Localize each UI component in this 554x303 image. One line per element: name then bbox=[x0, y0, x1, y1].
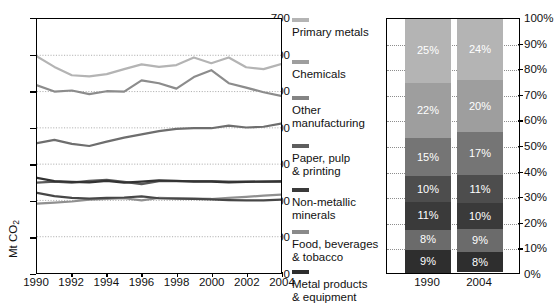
x-tick-label: 1996 bbox=[121, 276, 161, 288]
legend-item-6[interactable]: Food, beverages& tobacco bbox=[292, 230, 384, 263]
bar-segment: 10% bbox=[405, 176, 451, 201]
bar-segment: 24% bbox=[457, 19, 503, 80]
percent-tick-label: 50% bbox=[524, 141, 554, 152]
legend-item-2[interactable]: Chemicals bbox=[292, 60, 384, 81]
bar-segment-label: 10% bbox=[469, 211, 491, 222]
percent-tick-mark bbox=[518, 172, 523, 173]
x-tick-label: 1992 bbox=[51, 276, 91, 288]
percent-tick-mark bbox=[518, 248, 523, 249]
bar-segment: 17% bbox=[457, 132, 503, 176]
bar-segment: 9% bbox=[405, 250, 451, 273]
percent-tick-mark bbox=[518, 146, 523, 147]
bar-segment-label: 8% bbox=[472, 257, 488, 268]
bar-segment-label: 11% bbox=[417, 210, 438, 221]
line-chart: Mt CO2 7006005004003002001000 1990199219… bbox=[0, 0, 290, 296]
bar-category-label: 1990 bbox=[397, 276, 457, 288]
legend-swatch-icon bbox=[292, 144, 309, 148]
percent-tick-mark bbox=[518, 120, 523, 121]
bar-segment: 8% bbox=[457, 252, 503, 272]
legend-item-3[interactable]: Othermanufacturing bbox=[292, 96, 384, 129]
y-axis-title: Mt CO2 bbox=[7, 209, 21, 269]
line-series-svg bbox=[37, 19, 281, 273]
bar-segment: 9% bbox=[457, 229, 503, 252]
line-plot-area bbox=[36, 18, 282, 274]
percent-tick-label: 10% bbox=[524, 243, 554, 254]
bar-segment: 22% bbox=[405, 83, 451, 139]
legend-label: Paper, pulp bbox=[292, 152, 384, 165]
legend-swatch-icon bbox=[292, 230, 309, 234]
bar-segment-label: 24% bbox=[469, 44, 491, 55]
percent-tick-label: 90% bbox=[524, 38, 554, 49]
x-tick-label: 1998 bbox=[157, 276, 197, 288]
bar-segment-label: 20% bbox=[469, 101, 491, 112]
legend-item-1[interactable]: Primary metals bbox=[292, 18, 384, 39]
percent-tick-label: 40% bbox=[524, 166, 554, 177]
stacked-bar-2004[interactable]: 24%20%17%11%10%9%8% bbox=[457, 19, 503, 273]
legend-label-line2: & printing bbox=[292, 165, 384, 178]
x-tick-mark bbox=[282, 272, 283, 277]
bar-segment-label: 10% bbox=[417, 184, 439, 195]
line-series-3 bbox=[37, 124, 281, 146]
bar-segment-label: 11% bbox=[469, 184, 490, 195]
y-axis-title-subscript: 2 bbox=[11, 220, 21, 225]
legend-label-line2: & equipment bbox=[292, 291, 384, 303]
bar-segment: 20% bbox=[457, 80, 503, 131]
bar-segment: 11% bbox=[457, 175, 503, 203]
line-series-1 bbox=[37, 56, 281, 76]
legend-swatch-icon bbox=[292, 188, 309, 192]
bar-segment-label: 17% bbox=[469, 148, 491, 159]
stacked-bar-1990[interactable]: 25%22%15%10%11%8%9% bbox=[405, 19, 451, 273]
stacked-bar-chart: 25%22%15%10%11%8%9%24%20%17%11%10%9%8% 1… bbox=[384, 0, 552, 296]
x-tick-label: 1990 bbox=[16, 276, 56, 288]
percent-tick-mark bbox=[518, 95, 523, 96]
percent-tick-label: 80% bbox=[524, 64, 554, 75]
bar-segment: 8% bbox=[405, 230, 451, 250]
percent-tick-mark bbox=[518, 69, 523, 70]
bar-category-label: 2004 bbox=[449, 276, 509, 288]
legend-label: Chemicals bbox=[292, 68, 384, 81]
percent-tick-mark bbox=[518, 44, 523, 45]
bar-segment-label: 9% bbox=[420, 256, 436, 267]
bar-segment-label: 25% bbox=[417, 45, 439, 56]
legend-label-line2: minerals bbox=[292, 209, 384, 222]
legend-swatch-icon bbox=[292, 96, 309, 100]
legend-swatch-icon bbox=[292, 60, 309, 64]
chart-legend: Primary metalsChemicalsOthermanufacturin… bbox=[292, 16, 384, 288]
percent-tick-label: 70% bbox=[524, 89, 554, 100]
legend-label: Non-metallic bbox=[292, 196, 384, 209]
x-tick-label: 1994 bbox=[86, 276, 126, 288]
bar-segment-label: 8% bbox=[420, 234, 436, 245]
bar-segment-label: 15% bbox=[417, 152, 439, 163]
bar-segment: 25% bbox=[405, 19, 451, 83]
bar-segment: 10% bbox=[457, 203, 503, 229]
bar-segment-label: 9% bbox=[472, 235, 488, 246]
percent-tick-label: 60% bbox=[524, 115, 554, 126]
bar-segment-label: 22% bbox=[417, 105, 439, 116]
legend-item-5[interactable]: Non-metallicminerals bbox=[292, 188, 384, 221]
legend-label: Metal products bbox=[292, 278, 384, 291]
legend-swatch-icon bbox=[292, 270, 309, 274]
legend-label-line2: manufacturing bbox=[292, 117, 384, 130]
percent-tick-label: 0% bbox=[524, 269, 554, 280]
x-tick-label: 2002 bbox=[227, 276, 267, 288]
legend-label: Food, beverages bbox=[292, 238, 384, 251]
percent-tick-mark bbox=[518, 197, 523, 198]
legend-item-7[interactable]: Metal products& equipment bbox=[292, 270, 384, 303]
bar-segment: 15% bbox=[405, 138, 451, 176]
legend-label: Primary metals bbox=[292, 26, 384, 39]
legend-label-line2: & tobacco bbox=[292, 251, 384, 264]
percent-tick-label: 30% bbox=[524, 192, 554, 203]
legend-label: Other bbox=[292, 104, 384, 117]
x-tick-label: 2000 bbox=[192, 276, 232, 288]
bar-plot-area: 25%22%15%10%11%8%9%24%20%17%11%10%9%8% bbox=[386, 18, 520, 274]
y-axis-title-text: Mt CO bbox=[7, 225, 19, 258]
percent-tick-label: 20% bbox=[524, 217, 554, 228]
percent-tick-mark bbox=[518, 223, 523, 224]
legend-item-4[interactable]: Paper, pulp& printing bbox=[292, 144, 384, 177]
percent-tick-label: 100% bbox=[524, 13, 554, 24]
legend-swatch-icon bbox=[292, 18, 309, 22]
bar-segment: 11% bbox=[405, 202, 451, 230]
line-series-2 bbox=[37, 70, 281, 96]
